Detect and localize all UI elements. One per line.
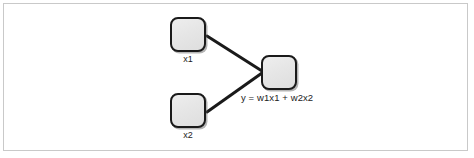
edge-connectors — [0, 0, 474, 158]
diagram-canvas: x1 x2 y = w1x1 + w2x2 — [0, 0, 474, 158]
input-node-x2-label: x2 — [170, 130, 206, 140]
input-node-x2 — [170, 93, 206, 128]
input-node-x1-label: x1 — [170, 54, 206, 64]
input-node-x1 — [170, 17, 206, 52]
output-node-y — [261, 55, 297, 90]
output-node-y-formula-label: y = w1x1 + w2x2 — [241, 92, 313, 103]
edge-x1-to-y — [207, 36, 262, 71]
